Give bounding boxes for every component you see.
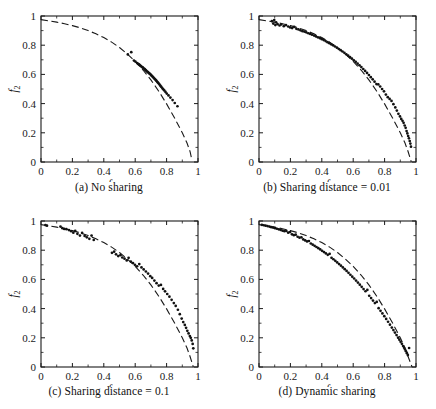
y-tick-label: 0.4: [240, 303, 254, 315]
x-tick-label: 0.2: [66, 370, 80, 382]
x-tick-label: 0.8: [160, 370, 174, 382]
data-point: [383, 315, 386, 318]
data-point: [130, 51, 133, 54]
data-point: [142, 268, 145, 271]
data-point: [127, 256, 130, 259]
data-point: [113, 250, 116, 253]
data-point: [328, 253, 331, 256]
data-point: [187, 332, 190, 335]
data-point: [74, 230, 77, 233]
data-point: [136, 265, 139, 268]
plot-frame: [41, 221, 198, 367]
data-point: [289, 231, 292, 234]
data-point: [364, 70, 367, 73]
solution-points: [44, 224, 195, 350]
axis-ticks: [41, 16, 198, 162]
data-point: [392, 329, 395, 332]
x-tick-label: 0: [256, 165, 262, 177]
panel-a-caption: (a) No sharing: [0, 181, 218, 193]
data-point: [138, 263, 141, 266]
data-point: [353, 277, 356, 280]
data-point: [381, 88, 384, 91]
data-point: [371, 78, 374, 81]
data-point: [285, 24, 288, 27]
x-tick-label: 0.2: [284, 165, 298, 177]
x-tick-label: 0.2: [284, 370, 298, 382]
data-point: [273, 19, 276, 22]
data-point: [192, 347, 195, 350]
data-point: [355, 279, 358, 282]
data-point: [79, 234, 82, 237]
scatter-plot-b: 00.20.40.60.8100.20.40.60.81f1f2: [218, 0, 436, 182]
data-point: [394, 331, 397, 334]
data-point: [373, 80, 376, 83]
data-point: [170, 298, 173, 301]
scatter-plot-a: 00.20.40.60.8100.20.40.60.81f1f2: [0, 0, 218, 182]
data-point: [164, 290, 167, 293]
data-point: [388, 98, 391, 101]
plot-d: 00.20.40.60.8100.20.40.60.81f1f2: [218, 205, 436, 387]
data-point: [408, 140, 411, 143]
y-tick-label: 0.6: [22, 273, 36, 285]
data-point: [366, 72, 369, 75]
y-tick-label: 1: [249, 215, 255, 227]
solution-points: [126, 51, 178, 108]
panel-b-caption: (b) Sharing distance = 0.01: [218, 181, 436, 193]
y-tick-label: 0: [31, 156, 37, 168]
data-point: [168, 295, 171, 298]
pareto-front-curve: [41, 20, 192, 159]
x-tick-label: 0.2: [66, 165, 80, 177]
plot-c: 00.20.40.60.8100.20.40.60.81f1f2: [0, 205, 218, 387]
x-tick-label: 1: [413, 370, 419, 382]
plot-frame: [259, 221, 416, 367]
x-tick-label: 1: [195, 165, 201, 177]
data-point: [385, 93, 388, 96]
data-point: [85, 236, 88, 239]
data-point: [147, 272, 150, 275]
data-point: [408, 137, 411, 140]
y-tick-label: 0.8: [22, 244, 36, 256]
pareto-front-curve: [259, 225, 412, 367]
data-point: [368, 294, 371, 297]
axis-ticks: [41, 221, 198, 367]
data-point: [379, 85, 382, 88]
x-tick-label: 1: [195, 370, 201, 382]
data-point: [155, 282, 158, 285]
data-point: [397, 112, 400, 115]
data-point: [402, 122, 405, 125]
data-point: [399, 115, 402, 118]
data-point: [280, 23, 283, 26]
data-point: [381, 312, 384, 315]
data-point: [406, 132, 409, 135]
y-tick-label: 0.6: [240, 273, 254, 285]
data-point: [174, 305, 177, 308]
x-tick-label: 0.4: [97, 370, 111, 382]
axis-ticks: [259, 221, 416, 367]
pareto-front-curve: [259, 20, 411, 162]
data-point: [160, 284, 163, 287]
data-point: [189, 336, 192, 339]
y-axis-label: f2: [225, 85, 240, 92]
data-point: [368, 74, 371, 77]
data-point: [185, 327, 188, 330]
y-tick-label: 0.4: [240, 98, 254, 110]
x-tick-label: 0.4: [315, 165, 329, 177]
data-point: [360, 286, 363, 289]
data-point: [293, 26, 296, 29]
x-tick-label: 0.8: [378, 165, 392, 177]
data-point: [379, 309, 382, 312]
panel-d: 00.20.40.60.8100.20.40.60.81f1f2 (d) Dyn…: [218, 205, 436, 409]
y-tick-label: 0.2: [240, 127, 254, 139]
data-point: [394, 106, 397, 109]
x-tick-label: 0: [256, 370, 262, 382]
data-point: [405, 130, 408, 133]
x-tick-label: 0: [38, 165, 44, 177]
panel-c-caption: (c) Sharing distance = 0.1: [0, 385, 218, 397]
y-axis-label: f2: [225, 290, 240, 297]
figure-panel-grid: 00.20.40.60.8100.20.40.60.81f1f2 (a) No …: [0, 0, 436, 409]
x-tick-label: 0.6: [128, 165, 142, 177]
data-point: [119, 254, 122, 257]
data-point: [294, 233, 297, 236]
data-point: [88, 237, 91, 240]
data-point: [408, 347, 411, 350]
